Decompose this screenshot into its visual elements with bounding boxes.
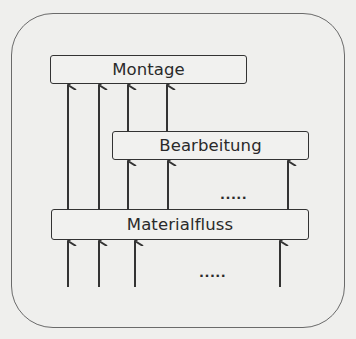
montage-label: Montage	[112, 60, 185, 79]
ellipsis-middle: .....	[220, 188, 247, 201]
bearbeitung-box: Bearbeitung	[112, 131, 309, 160]
bearbeitung-label: Bearbeitung	[159, 136, 262, 155]
materialfluss-box: Materialfluss	[51, 209, 309, 240]
materialfluss-label: Materialfluss	[127, 215, 233, 234]
montage-box: Montage	[50, 55, 247, 84]
flow-arrows	[0, 0, 356, 339]
ellipsis-bottom: .....	[199, 266, 226, 279]
